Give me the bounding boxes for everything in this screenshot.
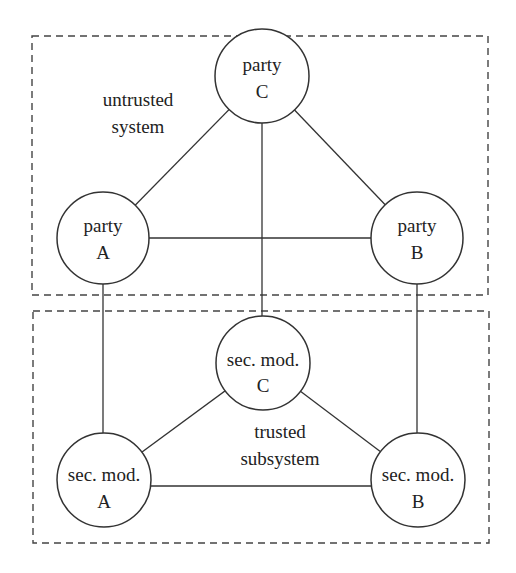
node-secmod-a: sec. mod. A <box>57 433 151 527</box>
untrusted-label-line2: system <box>112 116 165 137</box>
node-label-line1: sec. mod. <box>68 464 140 485</box>
node-label-line1: party <box>397 215 437 236</box>
node-party-a: party A <box>57 192 149 284</box>
node-label-line2: C <box>256 81 269 102</box>
node-label-line2: C <box>257 375 270 396</box>
node-label-line1: party <box>83 215 123 236</box>
node-secmod-b: sec. mod. B <box>371 433 465 527</box>
node-party-c: party C <box>215 29 309 123</box>
trusted-label-line2: subsystem <box>240 448 319 469</box>
node-label-line2: A <box>96 242 110 263</box>
node-party-b: party B <box>371 192 463 284</box>
node-circle <box>371 192 463 284</box>
node-circle <box>215 29 309 123</box>
node-label-line1: sec. mod. <box>382 464 454 485</box>
node-label-line2: B <box>412 491 425 512</box>
node-label-line1: sec. mod. <box>227 349 299 370</box>
trusted-label-line1: trusted <box>254 421 306 442</box>
node-label-line1: party <box>242 54 282 75</box>
untrusted-label-line1: untrusted <box>103 89 174 110</box>
node-label-line2: A <box>97 491 111 512</box>
security-architecture-diagram: untrusted system trusted subsystem party… <box>0 0 516 573</box>
node-label-line2: B <box>411 242 424 263</box>
node-secmod-c: sec. mod. C <box>216 316 310 410</box>
node-circle <box>57 192 149 284</box>
